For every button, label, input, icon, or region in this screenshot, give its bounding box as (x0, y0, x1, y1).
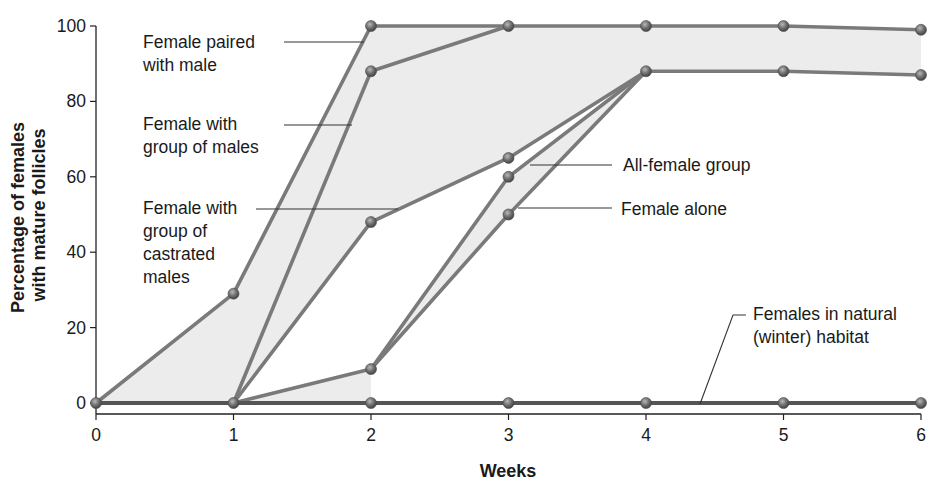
label-female-paired-with-male: Female paired with male (142, 32, 260, 75)
data-point-marker (916, 70, 927, 81)
data-point-marker (366, 217, 377, 228)
data-point-marker (778, 21, 789, 32)
data-point-marker (503, 152, 514, 163)
x-tick-label: 1 (229, 425, 239, 445)
y-tick-label: 100 (57, 16, 86, 36)
y-tick-label: 20 (67, 318, 87, 338)
data-point-marker (778, 398, 789, 409)
data-point-marker (366, 66, 377, 77)
data-point-marker (916, 398, 927, 409)
data-point-marker (366, 21, 377, 32)
leader-line (700, 315, 746, 404)
y-tick-label: 0 (76, 393, 86, 413)
x-tick-label: 2 (366, 425, 376, 445)
data-point-marker (228, 288, 239, 299)
data-point-marker (503, 21, 514, 32)
data-point-marker (366, 398, 377, 409)
y-tick-label: 40 (67, 242, 87, 262)
y-ticks: 020406080100 (57, 16, 96, 413)
data-point-marker (916, 24, 927, 35)
y-axis-label: Percentage of females with mature follic… (8, 117, 49, 313)
label-female-with-castrated-males: Female with group of castrated males (143, 198, 242, 287)
label-female-with-group-of-males: Female with group of males (143, 114, 259, 157)
x-ticks: 0123456 (91, 414, 926, 445)
data-point-marker (503, 209, 514, 220)
label-females-natural-habitat: Females in natural (winter) habitat (753, 304, 902, 347)
x-tick-label: 5 (779, 425, 789, 445)
label-female-alone: Female alone (621, 199, 727, 219)
y-tick-label: 80 (67, 91, 87, 111)
data-point-marker (641, 398, 652, 409)
data-point-marker (228, 398, 239, 409)
data-point-marker (503, 398, 514, 409)
data-point-marker (366, 364, 377, 375)
line-chart-svg: 020406080100 0123456 Weeks Percentage of… (0, 0, 949, 488)
x-axis-label: Weeks (480, 461, 537, 481)
y-axis-label-line-1: Percentage of females (8, 122, 28, 313)
data-point-marker (503, 171, 514, 182)
x-tick-label: 3 (504, 425, 514, 445)
data-point-marker (91, 398, 102, 409)
x-tick-label: 6 (916, 425, 926, 445)
chart: 020406080100 0123456 Weeks Percentage of… (0, 0, 949, 488)
x-tick-label: 0 (91, 425, 101, 445)
data-point-marker (641, 66, 652, 77)
y-tick-label: 60 (67, 167, 87, 187)
label-all-female-group: All-female group (623, 155, 750, 175)
data-point-marker (641, 21, 652, 32)
y-axis-label-line-2: with mature follicles (29, 128, 49, 302)
data-point-marker (778, 66, 789, 77)
x-tick-label: 4 (641, 425, 651, 445)
